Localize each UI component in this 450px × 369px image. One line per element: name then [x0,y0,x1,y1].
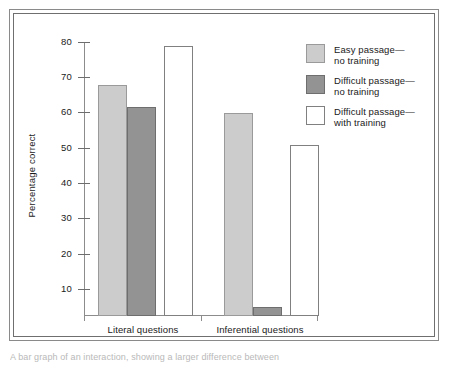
legend-swatch-easy-no-training [306,44,325,63]
bar-literal-easy-no-training [98,85,127,316]
bar-literal-difficult-no-training [127,107,156,316]
y-tick-label-40: 40 [32,178,72,188]
x-tick-left-edge [84,315,85,321]
y-tick-70 [78,77,90,78]
legend-label-difficult-with-training-line2: with training [334,117,415,128]
legend-swatch-difficult-with-training [306,106,325,125]
bar-literal-difficult-with-training [164,46,193,316]
y-tick-label-50: 50 [32,143,72,153]
y-tick-label-70: 70 [32,72,72,82]
legend-label-easy-no-training-line1: Easy passage— [334,44,404,55]
legend-label-difficult-no-training-line1: Difficult passage— [334,75,415,86]
x-axis-label-inferential: Inferential questions [195,324,325,336]
y-tick-10 [78,289,90,290]
legend-label-difficult-with-training-line1: Difficult passage— [334,106,415,117]
y-axis-line [84,42,85,316]
x-axis-label-literal: Literal questions [83,324,203,336]
y-tick-label-20: 20 [32,249,72,259]
y-tick-40 [78,183,90,184]
chart-legend: Easy passage— no training Difficult pass… [306,44,428,137]
y-tick-80 [78,42,90,43]
legend-label-easy-no-training: Easy passage— no training [334,44,404,66]
legend-item-difficult-no-training: Difficult passage— no training [306,75,428,97]
y-tick-label-80: 80 [32,37,72,47]
y-tick-label-60: 60 [32,107,72,117]
figure-caption: A bar graph of an interaction, showing a… [10,352,440,366]
legend-item-easy-no-training: Easy passage— no training [306,44,428,66]
legend-label-difficult-no-training-line2: no training [334,86,415,97]
legend-swatch-difficult-no-training [306,75,325,94]
y-tick-30 [78,218,90,219]
legend-item-difficult-with-training: Difficult passage— with training [306,106,428,128]
y-tick-20 [78,254,90,255]
bar-inferential-easy-no-training [224,113,253,316]
y-tick-label-30: 30 [32,213,72,223]
bar-inferential-difficult-with-training [290,145,319,316]
y-tick-50 [78,148,90,149]
bar-inferential-difficult-no-training [253,307,282,316]
legend-label-difficult-no-training: Difficult passage— no training [334,75,415,97]
x-tick-middle [201,315,202,321]
y-tick-60 [78,112,90,113]
legend-label-easy-no-training-line2: no training [334,55,404,66]
legend-label-difficult-with-training: Difficult passage— with training [334,106,415,128]
y-tick-label-10: 10 [32,284,72,294]
